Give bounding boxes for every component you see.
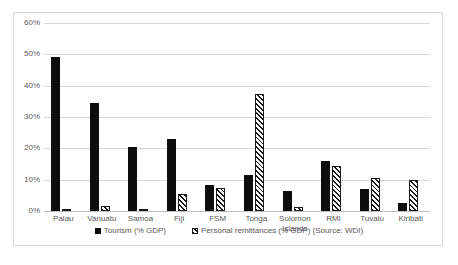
bar-series-group <box>44 23 430 211</box>
bar-tourism <box>321 161 330 211</box>
bar-remittances <box>255 94 264 211</box>
bar-group <box>44 23 83 211</box>
bar-group <box>237 23 276 211</box>
x-axis-label: Tuvalu <box>353 214 392 224</box>
bar-group <box>121 23 160 211</box>
bar-remittances <box>294 207 303 211</box>
bar-remittances <box>62 209 71 211</box>
bar-remittances <box>139 209 148 211</box>
x-axis-label: Vanuatu <box>83 214 122 224</box>
bar-tourism <box>398 203 407 211</box>
legend-label-tourism: Tourism (% GDP) <box>104 226 166 235</box>
x-axis-label: FSM <box>198 214 237 224</box>
legend-label-remittances: Personal remittances (% GDP) (Source: WD… <box>201 226 363 235</box>
plot-area: 0%10%20%30%40%50%60% <box>44 23 430 211</box>
y-axis-tick-label: 20% <box>24 144 40 152</box>
bar-remittances <box>332 166 341 211</box>
legend-item-tourism: Tourism (% GDP) <box>95 226 166 235</box>
y-axis-tick-label: 30% <box>24 113 40 121</box>
bar-remittances <box>409 180 418 211</box>
y-axis-tick-label: 60% <box>24 19 40 27</box>
chart-legend: Tourism (% GDP) Personal remittances (% … <box>14 226 444 235</box>
bar-group <box>198 23 237 211</box>
y-axis-tick-label: 10% <box>24 176 40 184</box>
x-axis-label: Palau <box>44 214 83 224</box>
y-axis-tick-label: 40% <box>24 82 40 90</box>
bar-remittances <box>178 194 187 211</box>
x-axis-label: Tonga <box>237 214 276 224</box>
bar-remittances <box>371 178 380 211</box>
bar-group <box>276 23 315 211</box>
y-axis-tick-label: 0% <box>28 207 40 215</box>
x-axis-label: Fiji <box>160 214 199 224</box>
bar-group <box>391 23 430 211</box>
bar-tourism <box>244 175 253 211</box>
y-axis-tick-label: 50% <box>24 50 40 58</box>
bar-tourism <box>90 103 99 211</box>
bar-group <box>353 23 392 211</box>
bar-remittances <box>216 188 225 211</box>
x-axis-line: 0% <box>44 211 430 212</box>
x-axis-label: Samoa <box>121 214 160 224</box>
bar-group <box>314 23 353 211</box>
bar-remittances <box>101 206 110 211</box>
x-axis-label: RMI <box>314 214 353 224</box>
bar-tourism <box>360 189 369 211</box>
hatched-square-icon <box>192 228 198 234</box>
bar-group <box>160 23 199 211</box>
bar-tourism <box>205 185 214 211</box>
bar-tourism <box>128 147 137 211</box>
bar-tourism <box>51 57 60 211</box>
legend-item-remittances: Personal remittances (% GDP) (Source: WD… <box>192 226 363 235</box>
bar-tourism <box>283 191 292 211</box>
solid-square-icon <box>95 228 101 234</box>
bar-group <box>83 23 122 211</box>
bar-tourism <box>167 139 176 211</box>
x-axis-label: Kiribati <box>391 214 430 224</box>
chart-container: 0%10%20%30%40%50%60% PalauVanuatuSamoaFi… <box>13 12 443 246</box>
